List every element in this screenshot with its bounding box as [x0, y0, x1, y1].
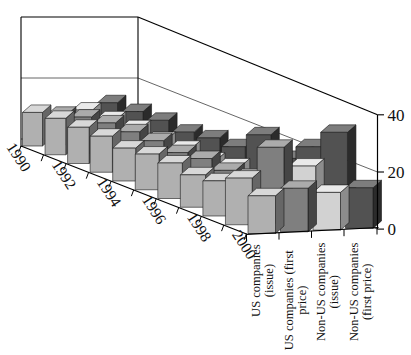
category-label-line: (first price)	[360, 264, 374, 321]
value-tick-label-40: 40	[388, 106, 405, 125]
bar-front-face	[90, 136, 112, 172]
bar-2000-series-1	[248, 188, 284, 233]
bar-2000-series-2	[281, 181, 317, 232]
bar-front-face	[248, 196, 276, 234]
bar-front-face	[135, 154, 159, 190]
value-tick-label-20: 20	[388, 163, 405, 182]
category-label-line: price)	[295, 286, 309, 315]
bar-front-face	[23, 112, 43, 146]
value-tick-label-0: 0	[388, 220, 397, 239]
bar-front-face	[203, 181, 229, 216]
category-label-line: Non-US companies	[314, 243, 328, 341]
bar-2000-series-4	[346, 180, 382, 228]
bar-front-face	[45, 118, 66, 154]
category-label-line: (issue)	[327, 275, 341, 308]
bar-front-face	[313, 192, 341, 230]
bar-2000-series-3	[313, 185, 349, 230]
bar-side-face	[276, 188, 285, 233]
bar-front-face	[281, 188, 309, 232]
bar-side-face	[308, 181, 317, 232]
category-label-line: (issue)	[262, 264, 276, 297]
bar-front-face	[68, 127, 90, 163]
bar-front-face	[346, 188, 374, 229]
chart-canvas: 199019921994199619982000US companies(iss…	[0, 0, 411, 355]
bar-front-face	[113, 148, 136, 181]
category-label-line: US companies	[249, 244, 263, 317]
bar-front-face	[180, 175, 205, 207]
bar-side-face	[341, 185, 350, 230]
category-label-line: Non-US companies	[347, 243, 361, 341]
figure-3d-bar-chart: 199019921994199619982000US companies(iss…	[0, 0, 411, 355]
category-label-line: US companies (first	[282, 250, 296, 351]
bar-front-face	[158, 163, 183, 199]
